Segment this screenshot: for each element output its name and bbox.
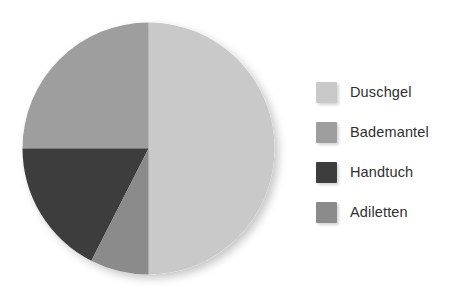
pie-slice-duschgel[interactable] xyxy=(149,23,275,275)
legend-label: Duschgel xyxy=(350,85,412,100)
legend-label: Handtuch xyxy=(350,165,413,180)
chart-legend: Duschgel Bademantel Handtuch Adiletten xyxy=(316,72,456,232)
pie-chart-figure: Duschgel Bademantel Handtuch Adiletten xyxy=(0,0,457,297)
legend-item-adiletten[interactable]: Adiletten xyxy=(316,192,456,232)
legend-label: Bademantel xyxy=(350,125,429,140)
pie-plot-area xyxy=(14,13,289,288)
legend-label: Adiletten xyxy=(350,205,408,220)
legend-item-handtuch[interactable]: Handtuch xyxy=(316,152,456,192)
legend-swatch-icon xyxy=(316,162,337,183)
pie-slice-bademantel[interactable] xyxy=(23,23,149,149)
legend-swatch-icon xyxy=(316,202,337,223)
pie-slices-group xyxy=(23,23,275,275)
legend-item-bademantel[interactable]: Bademantel xyxy=(316,112,456,152)
pie-svg xyxy=(14,13,289,288)
legend-item-duschgel[interactable]: Duschgel xyxy=(316,72,456,112)
legend-swatch-icon xyxy=(316,122,337,143)
legend-swatch-icon xyxy=(316,82,337,103)
